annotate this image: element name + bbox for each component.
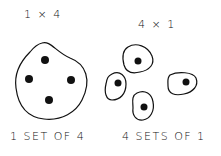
four-sets-of-one (105, 45, 197, 120)
single-set-of-four (16, 43, 87, 120)
right-caption: 4 SETS OF 1 (122, 130, 206, 143)
left-caption: 1 SET OF 4 (10, 130, 85, 143)
